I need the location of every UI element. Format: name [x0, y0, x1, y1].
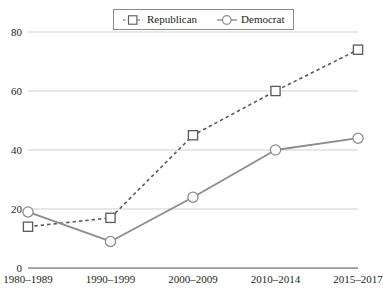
data-point-democrat-1[interactable] [105, 236, 115, 246]
data-point-republican-2[interactable] [188, 131, 197, 140]
x-axis-tick-label: 1980–1989 [3, 274, 53, 285]
legend-label-republican: Republican [147, 14, 197, 25]
legend-label-democrat: Democrat [241, 14, 284, 25]
legend-marker-square-dashed-icon [123, 14, 143, 26]
y-axis-tick-label: 40 [0, 145, 22, 156]
data-point-democrat-2[interactable] [188, 192, 198, 202]
data-point-republican-3[interactable] [271, 86, 280, 95]
y-axis-tick-label: 20 [0, 204, 22, 215]
x-axis-line [28, 268, 358, 269]
y-axis-tick-label: 60 [0, 86, 22, 97]
legend-item-republican[interactable]: Republican [123, 14, 197, 26]
chart-legend: Republican Democrat [113, 9, 294, 30]
series-line-democrat [28, 138, 358, 241]
legend-marker-circle-solid-icon [217, 14, 237, 26]
x-axis-tick-label: 1990–1999 [86, 274, 136, 285]
data-point-republican-1[interactable] [106, 213, 115, 222]
data-point-democrat-3[interactable] [270, 145, 280, 155]
data-point-republican-0[interactable] [23, 222, 32, 231]
plot-area [28, 32, 358, 268]
data-point-democrat-4[interactable] [353, 133, 363, 143]
y-axis-tick-label: 0 [0, 263, 22, 274]
data-point-republican-4[interactable] [353, 45, 362, 54]
data-series-layer [28, 32, 358, 268]
x-axis-tick-label: 2015–2017 [333, 274, 383, 285]
data-point-democrat-0[interactable] [23, 207, 33, 217]
y-axis-tick-label: 80 [0, 27, 22, 38]
legend-item-democrat[interactable]: Democrat [217, 14, 284, 26]
x-axis-tick-label: 2000–2009 [168, 274, 218, 285]
x-axis-tick-label: 2010–2014 [251, 274, 301, 285]
